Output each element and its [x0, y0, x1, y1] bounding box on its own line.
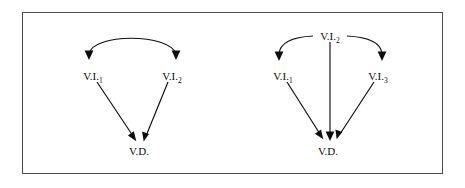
arrowhead: [142, 132, 149, 142]
edge-line: [146, 82, 168, 136]
edge-vi2-to-vd: [142, 82, 168, 141]
edge-vi1-to-vd: [287, 82, 323, 139]
node-label-vi2: V.I.2: [162, 70, 182, 85]
node-label-vd: V.D.: [129, 145, 149, 157]
arrowhead: [128, 131, 136, 141]
arrowhead: [335, 129, 342, 139]
arrowhead: [326, 132, 335, 142]
arrowhead: [378, 52, 387, 62]
node-label-vi1: V.I.1: [83, 70, 103, 85]
edge-vi2-to-vi1-curved-arrow: [275, 36, 313, 61]
path-diagram-canvas: V.I.1 V.I.2 V.D.: [0, 0, 465, 188]
node-label-vi1: V.I.1: [273, 70, 293, 85]
right-panel-group: V.I.2 V.I.1 V.I.3 V.D.: [273, 30, 388, 157]
edge-vi2-to-vi3-curved-arrow: [347, 36, 386, 61]
arrowhead-left: [85, 51, 94, 61]
edge-line: [97, 82, 133, 136]
edge-line: [340, 82, 374, 134]
left-panel-group: V.I.1 V.I.2 V.D.: [83, 38, 182, 157]
edge-vi1-vi2-curved-double-arrow: [85, 38, 181, 60]
edge-line: [287, 82, 320, 134]
node-label-vi3: V.I.3: [368, 70, 388, 85]
edge-vi1-to-vd: [97, 82, 136, 141]
edge-vi3-to-vd: [335, 82, 374, 139]
node-label-vd: V.D.: [318, 145, 338, 157]
arc-path: [347, 36, 382, 54]
figure-root: V.I.1 V.I.2 V.D.: [0, 0, 465, 188]
arrowhead: [275, 52, 284, 62]
arrowhead-right: [172, 51, 181, 61]
arc-path: [89, 38, 176, 54]
edge-vi2-to-vd: [326, 42, 335, 141]
arrowhead: [315, 130, 323, 140]
arc-path: [279, 36, 313, 54]
